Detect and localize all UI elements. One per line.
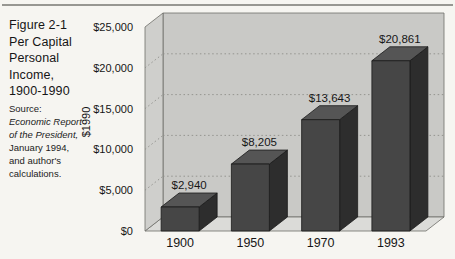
bar-1970 [302, 120, 340, 231]
x-tick-label: 1950 [236, 236, 264, 250]
bar-1993 [372, 61, 410, 231]
y-axis-title: $1990 [80, 107, 92, 138]
y-tick-label: $15,000 [93, 103, 133, 115]
y-tick-label: $20,000 [93, 62, 133, 74]
x-tick-label: 1993 [377, 236, 405, 250]
x-tick-label: 1970 [307, 236, 335, 250]
value-label: $2,940 [172, 179, 207, 191]
y-tick-label: $0 [121, 225, 133, 237]
income-bar-chart-canvas: $0$5,000$10,000$15,000$20,000$25,000$199… [0, 0, 455, 259]
value-label: $13,643 [309, 92, 351, 104]
y-tick-label: $5,000 [99, 184, 133, 196]
bar-side-1993 [410, 47, 428, 231]
value-label: $20,861 [379, 33, 421, 45]
bar-side-1970 [340, 106, 358, 231]
y-tick-label: $25,000 [93, 21, 133, 33]
x-tick-label: 1900 [166, 236, 194, 250]
value-label: $8,205 [242, 136, 277, 148]
bar-1900 [161, 207, 199, 231]
bar-1950 [231, 164, 269, 231]
y-tick-label: $10,000 [93, 143, 133, 155]
left-wall [145, 13, 163, 231]
